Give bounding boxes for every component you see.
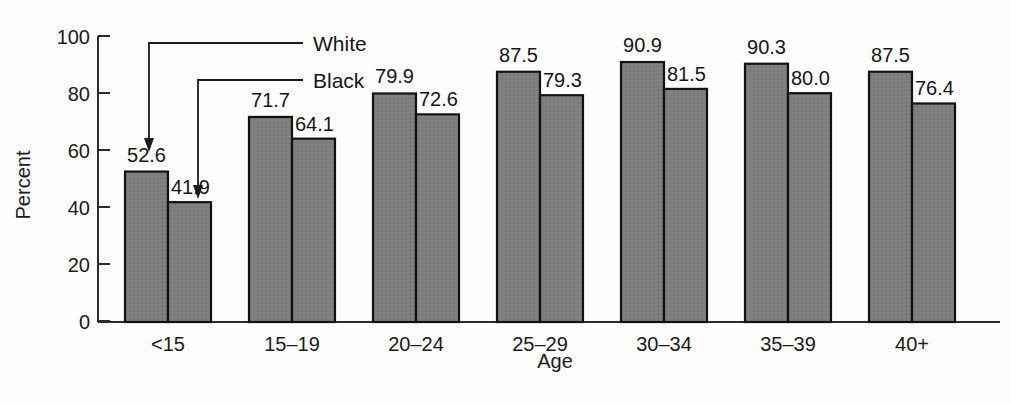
y-tick-label-100: 100 xyxy=(57,26,90,48)
annotation-label-black: Black xyxy=(313,69,365,92)
x-category-label-1: 15–19 xyxy=(264,333,320,355)
bar-black-0 xyxy=(168,202,211,322)
y-tick-label-20: 20 xyxy=(68,254,90,276)
value-label-black-1: 64.1 xyxy=(295,113,334,135)
x-category-label-4: 30–34 xyxy=(636,333,692,355)
x-category-label-5: 35–39 xyxy=(760,333,816,355)
bar-black-3 xyxy=(540,95,583,322)
x-category-label-6: 40+ xyxy=(895,333,929,355)
value-label-black-0: 41.9 xyxy=(171,176,210,198)
value-label-white-4: 90.9 xyxy=(623,34,662,56)
bar-black-6 xyxy=(912,103,955,322)
value-label-white-2: 79.9 xyxy=(375,65,414,87)
value-label-black-4: 81.5 xyxy=(667,63,706,85)
bar-black-1 xyxy=(292,139,335,322)
bar-white-6 xyxy=(869,72,912,322)
x-category-label-2: 20–24 xyxy=(388,333,444,355)
value-label-white-5: 90.3 xyxy=(747,36,786,58)
bar-white-5 xyxy=(745,64,788,322)
y-axis-title: Percent xyxy=(12,150,34,219)
value-label-white-1: 71.7 xyxy=(251,89,290,111)
chart-canvas: 100 80 60 40 20 0 Percent Age <1515–1920… xyxy=(0,0,1011,405)
bar-chart-figure: 100 80 60 40 20 0 Percent Age <1515–1920… xyxy=(0,0,1011,405)
bar-white-2 xyxy=(373,93,416,322)
y-tick-label-60: 60 xyxy=(68,140,90,162)
annotation-label-white: White xyxy=(313,32,367,55)
x-category-label-3: 25–29 xyxy=(512,333,568,355)
bar-white-4 xyxy=(621,62,664,322)
value-label-black-5: 80.0 xyxy=(791,67,830,89)
bar-black-2 xyxy=(416,114,459,322)
value-label-black-2: 72.6 xyxy=(419,88,458,110)
y-tick-label-0: 0 xyxy=(79,311,90,333)
y-axis: 100 80 60 40 20 0 Percent xyxy=(12,26,110,333)
value-label-black-3: 79.3 xyxy=(543,69,582,91)
bar-black-4 xyxy=(664,89,707,322)
bar-white-0 xyxy=(125,172,168,322)
bar-white-3 xyxy=(497,72,540,322)
x-category-label-0: <15 xyxy=(151,333,185,355)
bars-layer xyxy=(125,62,955,322)
y-tick-label-80: 80 xyxy=(68,83,90,105)
category-labels-layer: <1515–1920–2425–2930–3435–3940+ xyxy=(151,333,929,355)
bar-black-5 xyxy=(788,93,831,322)
value-label-black-6: 76.4 xyxy=(915,77,954,99)
value-label-white-6: 87.5 xyxy=(871,44,910,66)
bar-white-1 xyxy=(249,117,292,322)
value-label-white-0: 52.6 xyxy=(127,144,166,166)
y-tick-label-40: 40 xyxy=(68,197,90,219)
value-label-white-3: 87.5 xyxy=(499,44,538,66)
